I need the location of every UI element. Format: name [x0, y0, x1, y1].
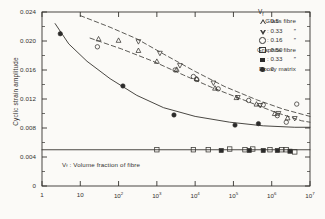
- data-point-s5-p1: [121, 84, 125, 88]
- data-point-s5-p0: [58, 32, 62, 36]
- x-tick-label-1: 10: [67, 191, 93, 198]
- legend-row-0: Glass fibre: 0.5: [196, 17, 296, 26]
- data-point-s0-p6: [213, 86, 218, 90]
- data-point-s0-p0: [96, 36, 101, 40]
- data-point-s4-p2: [261, 148, 265, 152]
- data-point-s4-p0: [219, 148, 223, 152]
- legend-value-0: : 0.5: [267, 17, 279, 24]
- data-point-s0-p10: [285, 115, 290, 119]
- x-tick-label-2: 102: [106, 191, 132, 199]
- data-point-s3-p9: [293, 150, 297, 154]
- data-point-s2-p5: [246, 98, 250, 102]
- data-point-s1-p0: [136, 40, 141, 44]
- x-tick-label-0: 1: [29, 191, 55, 198]
- data-point-s5-p3: [233, 123, 237, 127]
- legend-row-5: Epoxy matrix: 0: [196, 65, 296, 74]
- data-point-s5-p4: [256, 121, 260, 125]
- data-point-s2-p0: [95, 45, 99, 49]
- legend-row-2: ″: 0.16: [196, 36, 296, 45]
- legend-marker-triangle-down-open: [258, 27, 267, 34]
- legend-row-4: ″: 0.33: [196, 55, 296, 64]
- legend-row-1: ″: 0.33: [196, 27, 296, 36]
- y-tick-label-1: 0.004: [4, 153, 36, 160]
- data-point-s4-p4: [288, 149, 292, 153]
- data-point-s1-p2: [178, 64, 183, 68]
- data-point-s2-p8: [284, 120, 288, 124]
- legend-marker-circle-open: [258, 36, 267, 44]
- legend-row-3: Graphite fibre: 0.50: [196, 46, 296, 55]
- data-point-s4-p1: [247, 148, 251, 152]
- legend-value-4: : 0.33: [267, 55, 282, 62]
- data-point-s3-p3: [228, 147, 232, 151]
- x-tick-label-5: 105: [220, 191, 246, 199]
- y-tick-label-0: 0: [4, 182, 36, 189]
- legend-marker-circle-filled: [258, 65, 267, 72]
- data-point-s0-p2: [136, 48, 141, 52]
- y-tick-label-3: 0.012: [4, 95, 36, 102]
- y-tick-label-4: 0.016: [4, 66, 36, 73]
- figure-canvas: Cyclic strain amplitude 00.0040.0080.012…: [0, 0, 325, 219]
- data-point-s0-p1: [116, 38, 121, 42]
- legend-value-5: : 0: [267, 65, 274, 72]
- volume-fraction-note: Vf : Volume fraction of fibre: [62, 161, 140, 168]
- y-tick-label-5: 0.020: [4, 37, 36, 44]
- note-text: : Volume fraction of fibre: [70, 161, 141, 168]
- legend-marker-triangle-up-open: [258, 17, 267, 24]
- legend-value-2: : 0.16: [267, 36, 282, 43]
- x-tick-label-4: 104: [182, 191, 208, 199]
- data-point-s5-p2: [172, 113, 176, 117]
- x-tick-label-6: 106: [259, 191, 285, 199]
- data-point-s1-p1: [157, 51, 162, 55]
- y-tick-label-2: 0.008: [4, 124, 36, 131]
- x-tick-label-3: 103: [144, 191, 170, 199]
- legend-marker-square-open: [258, 46, 267, 53]
- note-symbol: Vf: [62, 161, 68, 168]
- data-point-s2-p9: [295, 102, 299, 106]
- data-point-s4-p3: [275, 148, 279, 152]
- legend-header: Vf: [258, 8, 264, 17]
- y-tick-label-6: 0.024: [4, 8, 36, 15]
- x-tick-label-7: 107: [297, 191, 323, 199]
- legend-marker-square-filled: [258, 55, 267, 62]
- data-point-s1-p3: [211, 81, 216, 85]
- legend-value-3: : 0.50: [267, 46, 282, 53]
- legend-value-1: : 0.33: [267, 27, 282, 34]
